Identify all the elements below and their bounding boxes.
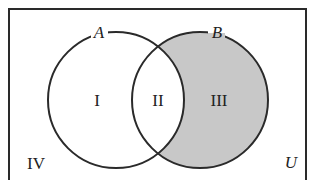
venn-diagram: A B I II III IV U	[0, 0, 310, 180]
universe-label: U	[285, 153, 299, 172]
region-i-label: I	[94, 91, 100, 110]
region-iii-label: III	[211, 91, 228, 110]
region-ii-label: II	[152, 91, 164, 110]
set-b-label: B	[212, 23, 223, 42]
region-iv-label: IV	[27, 154, 46, 173]
set-a-label: A	[93, 23, 105, 42]
